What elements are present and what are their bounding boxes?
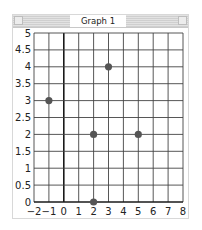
x-tick-label: 6 [150, 206, 156, 217]
y-tick-label: 3.5 [15, 78, 31, 89]
y-tick-label: 4.5 [15, 44, 31, 55]
y-tick-label: 5 [25, 28, 31, 39]
x-tick-label: 3 [105, 206, 111, 217]
data-point [135, 131, 142, 138]
data-point [105, 63, 112, 70]
y-tick-label: 2.5 [15, 112, 31, 123]
y-tick-label: 0.5 [15, 180, 31, 191]
y-tick-label: 1 [25, 163, 31, 174]
x-tick-label: 2 [90, 206, 96, 217]
data-point [90, 198, 97, 205]
x-tick-label: −1 [42, 206, 57, 217]
x-tick-label: 7 [165, 206, 171, 217]
data-point [45, 97, 52, 104]
y-tick-label: 2 [25, 129, 31, 140]
y-tick-label: 4 [25, 61, 31, 72]
x-axis-ticks: −2−1012345678 [27, 206, 187, 217]
data-point [90, 131, 97, 138]
x-tick-label: −2 [27, 206, 42, 217]
y-tick-label: 1.5 [15, 146, 31, 157]
x-tick-label: 4 [120, 206, 126, 217]
y-tick-label: 3 [25, 95, 31, 106]
y-axis-ticks: 00.511.522.533.544.55 [15, 28, 31, 208]
x-tick-label: 1 [76, 206, 82, 217]
x-tick-label: 5 [135, 206, 141, 217]
grid-lines [34, 33, 183, 202]
x-tick-label: 0 [61, 206, 67, 217]
x-tick-label: 8 [180, 206, 186, 217]
scatter-plot: 00.511.522.533.544.55 −2−1012345678 [0, 0, 202, 230]
